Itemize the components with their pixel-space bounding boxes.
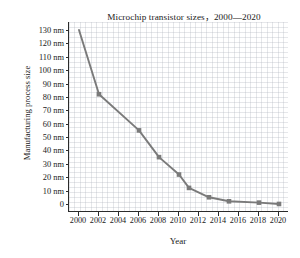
y-tick-mark xyxy=(66,124,70,125)
y-tick-label: 130 nm xyxy=(28,26,64,35)
data-point-marker xyxy=(97,92,102,97)
data-point-marker xyxy=(227,199,232,204)
y-tick-label: 0 xyxy=(28,199,64,208)
y-tick-label: 50 nm xyxy=(28,133,64,142)
data-series-line xyxy=(69,22,289,212)
y-tick-label: 30 nm xyxy=(28,159,64,168)
y-tick-label: 120 nm xyxy=(28,39,64,48)
plot-area xyxy=(68,22,288,212)
chart-figure: Microchip transistor sizes，2000—2020 Man… xyxy=(0,0,300,258)
y-tick-mark xyxy=(66,191,70,192)
data-point-marker xyxy=(137,128,142,133)
y-tick-label: 90 nm xyxy=(28,79,64,88)
y-tick-mark xyxy=(66,177,70,178)
y-tick-label: 20 nm xyxy=(28,173,64,182)
data-point-marker xyxy=(187,186,192,191)
x-axis-tick-labels: 2000200220042006200820102012201420162018… xyxy=(68,212,288,232)
y-tick-label: 100 nm xyxy=(28,66,64,75)
x-tick-label: 2020 xyxy=(258,216,298,225)
x-axis-title: Year xyxy=(68,236,288,246)
x-tick-mark xyxy=(278,212,279,216)
y-tick-mark xyxy=(66,204,70,205)
y-tick-mark xyxy=(66,30,70,31)
y-tick-mark xyxy=(66,70,70,71)
y-tick-mark xyxy=(66,43,70,44)
data-point-marker xyxy=(177,172,182,177)
y-tick-label: 110 nm xyxy=(28,52,64,61)
y-tick-label: 10 nm xyxy=(28,186,64,195)
y-tick-mark xyxy=(66,57,70,58)
y-tick-mark xyxy=(66,97,70,98)
series-line xyxy=(79,30,279,204)
y-tick-label: 80 nm xyxy=(28,92,64,101)
y-tick-mark xyxy=(66,84,70,85)
y-tick-label: 40 nm xyxy=(28,146,64,155)
data-point-marker xyxy=(157,155,162,160)
data-point-marker xyxy=(257,200,262,205)
y-tick-mark xyxy=(66,150,70,151)
chart-title: Microchip transistor sizes，2000—2020 xyxy=(68,9,300,23)
y-tick-label: 70 nm xyxy=(28,106,64,115)
y-tick-mark xyxy=(66,110,70,111)
data-point-marker xyxy=(207,195,212,200)
y-tick-label: 60 nm xyxy=(28,119,64,128)
y-axis-tick-labels: 010 nm20 nm30 nm40 nm50 nm60 nm70 nm80 n… xyxy=(26,22,64,212)
data-point-marker xyxy=(277,202,282,207)
y-tick-mark xyxy=(66,137,70,138)
y-tick-mark xyxy=(66,164,70,165)
